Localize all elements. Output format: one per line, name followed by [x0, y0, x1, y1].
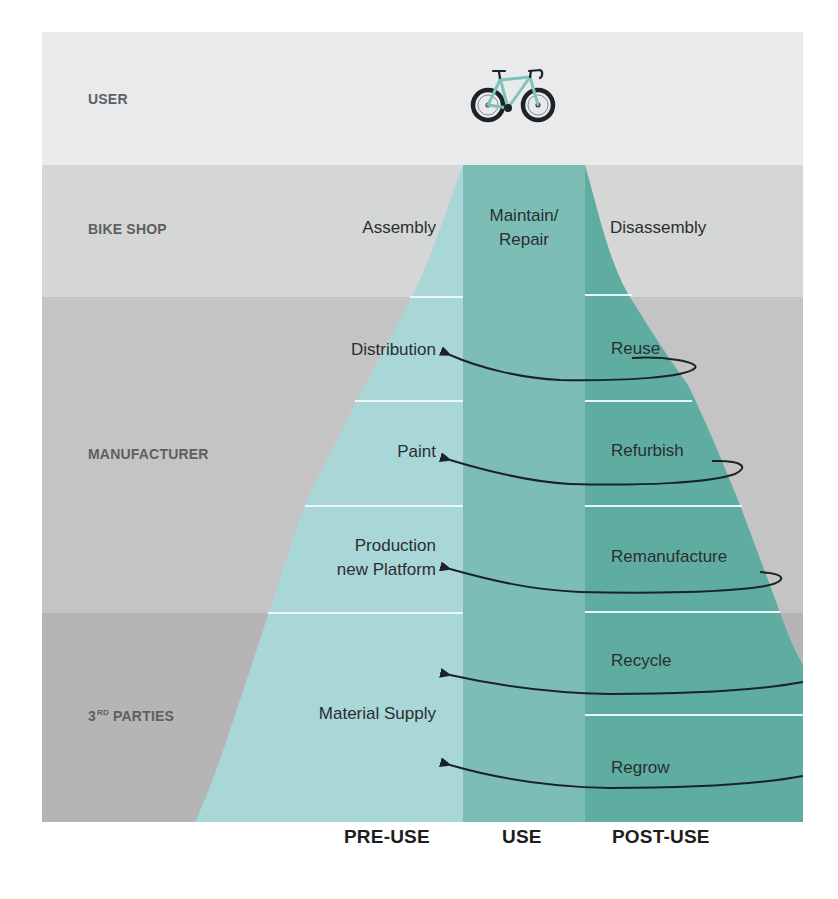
stage-remanufacture: Remanufacture — [611, 545, 727, 569]
band-label-third-parties: 3RD PARTIES — [88, 708, 174, 724]
phase-post-use: POST-USE — [612, 826, 710, 848]
stage-material-supply: Material Supply — [319, 702, 436, 726]
band-user — [42, 32, 803, 165]
stage-paint: Paint — [397, 440, 436, 464]
band-label-user: USER — [88, 91, 128, 107]
maintain-line2: Repair — [463, 228, 585, 252]
third-parties-text: PARTIES — [109, 708, 174, 724]
stage-recycle: Recycle — [611, 649, 671, 673]
production-line1: Production — [337, 534, 436, 558]
use-region — [463, 165, 585, 822]
production-line2: new Platform — [337, 558, 436, 582]
band-label-manufacturer: MANUFACTURER — [88, 446, 209, 462]
stage-regrow: Regrow — [611, 756, 670, 780]
third-parties-ordinal: RD — [97, 708, 109, 717]
stage-production-new-platform: Production new Platform — [337, 534, 436, 582]
third-parties-number: 3 — [88, 708, 96, 724]
stage-assembly: Assembly — [362, 216, 436, 240]
phase-pre-use: PRE-USE — [344, 826, 430, 848]
stage-distribution: Distribution — [351, 338, 436, 362]
stage-maintain-repair: Maintain/ Repair — [463, 204, 585, 252]
stage-disassembly: Disassembly — [610, 216, 706, 240]
band-label-bike-shop: BIKE SHOP — [88, 221, 167, 237]
maintain-line1: Maintain/ — [463, 204, 585, 228]
stage-reuse: Reuse — [611, 337, 660, 361]
stage-refurbish: Refurbish — [611, 439, 684, 463]
phase-use: USE — [502, 826, 542, 848]
